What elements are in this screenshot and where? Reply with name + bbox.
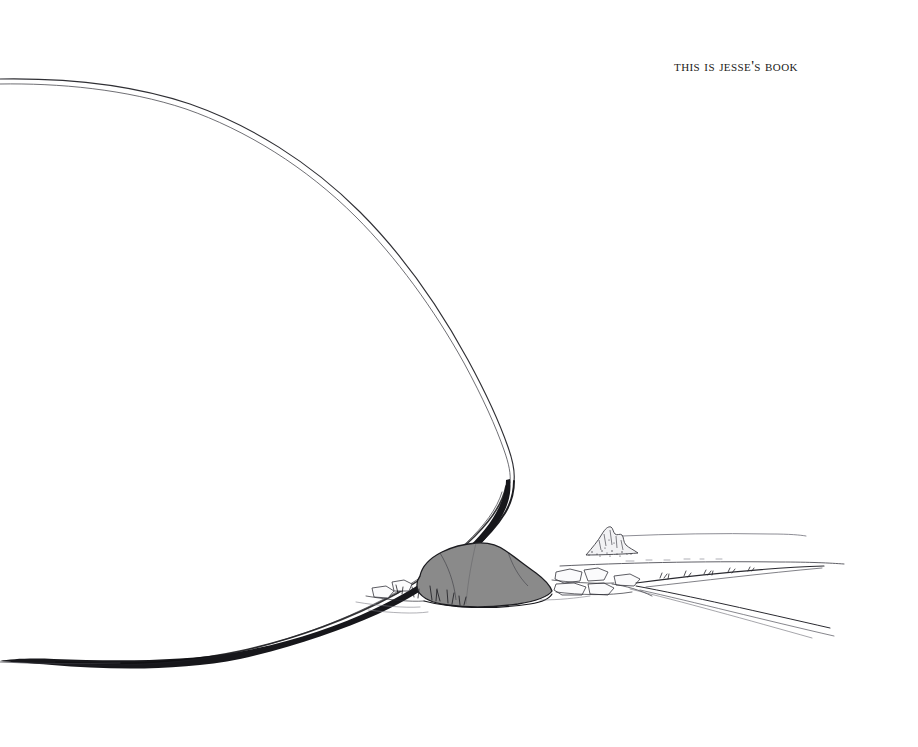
paper-background bbox=[0, 0, 918, 747]
desert-landscape-drawing bbox=[0, 0, 918, 747]
artwork-page: This is Jesse's book bbox=[0, 0, 918, 747]
inscription-text: This is Jesse's book bbox=[674, 58, 814, 74]
